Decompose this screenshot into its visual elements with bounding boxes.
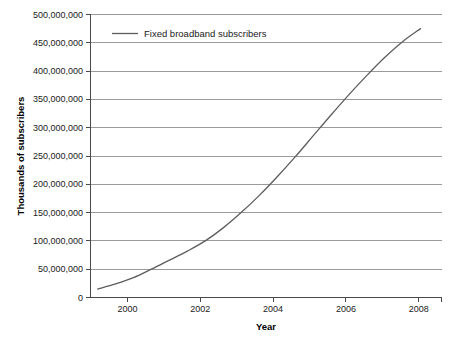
x-tick-label-2008: 2008 bbox=[409, 304, 429, 314]
line-chart: 0 50,000,000 100,000,000 150,000,000 200… bbox=[0, 0, 453, 341]
y-tick-label-200m: 200,000,000 bbox=[33, 179, 83, 189]
y-tick-label-50m: 50,000,000 bbox=[38, 264, 83, 274]
legend-label-fixed-broadband: Fixed broadband subscribers bbox=[144, 28, 267, 39]
x-axis-title: Year bbox=[256, 321, 276, 332]
y-tick-label-100m: 100,000,000 bbox=[33, 236, 83, 246]
series-line-fixed-broadband bbox=[98, 29, 421, 289]
y-tick-labels: 0 50,000,000 100,000,000 150,000,000 200… bbox=[33, 10, 83, 303]
y-axis bbox=[86, 14, 91, 298]
y-tick-label-500m: 500,000,000 bbox=[33, 10, 83, 20]
y-axis-title: Thousands of subscribers bbox=[15, 97, 26, 216]
y-tick-label-450m: 450,000,000 bbox=[33, 38, 83, 48]
x-tick-labels: 2000 2002 2004 2006 2008 bbox=[117, 304, 428, 314]
y-tick-label-300m: 300,000,000 bbox=[33, 123, 83, 133]
y-tick-label-0: 0 bbox=[78, 293, 83, 303]
x-tick-label-2000: 2000 bbox=[117, 304, 137, 314]
y-tick-label-400m: 400,000,000 bbox=[33, 66, 83, 76]
x-tick-label-2004: 2004 bbox=[263, 304, 283, 314]
legend: Fixed broadband subscribers bbox=[112, 28, 267, 39]
y-tick-label-150m: 150,000,000 bbox=[33, 208, 83, 218]
chart-container: 0 50,000,000 100,000,000 150,000,000 200… bbox=[0, 0, 453, 341]
y-tick-label-350m: 350,000,000 bbox=[33, 94, 83, 104]
x-tick-label-2006: 2006 bbox=[336, 304, 356, 314]
x-tick-label-2002: 2002 bbox=[190, 304, 210, 314]
y-tick-label-250m: 250,000,000 bbox=[33, 151, 83, 161]
x-axis bbox=[90, 298, 442, 303]
